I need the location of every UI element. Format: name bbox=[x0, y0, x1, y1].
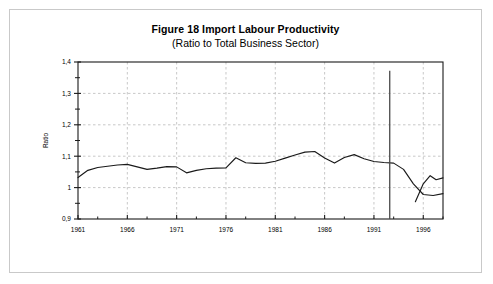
y-tick-label: 1 bbox=[67, 184, 71, 191]
x-tick-label: 1976 bbox=[219, 226, 234, 233]
x-tick-label: 1996 bbox=[416, 226, 431, 233]
figure-outer-frame: Figure 18 Import Labour Productivity (Ra… bbox=[9, 9, 482, 273]
x-tick-label: 1981 bbox=[268, 226, 283, 233]
x-tick-label: 1966 bbox=[120, 226, 135, 233]
x-axis-tick-labels: 19611966197119761981198619911996 bbox=[71, 226, 431, 233]
y-axis-title-text: Ratio bbox=[42, 133, 49, 149]
data-series-line bbox=[78, 151, 443, 201]
y-axis-title: Ratio bbox=[42, 133, 49, 149]
chart-plot: 0,911,11,21,31,4 19611966197119761981198… bbox=[10, 10, 483, 274]
y-tick-label: 1,2 bbox=[62, 121, 71, 128]
x-tick-label: 1961 bbox=[71, 226, 86, 233]
y-tick-label: 1,3 bbox=[62, 90, 71, 97]
x-tick-label: 1991 bbox=[367, 226, 382, 233]
plot-frame bbox=[78, 62, 443, 219]
y-tick-label: 1,1 bbox=[62, 153, 71, 160]
y-tick-label: 1,4 bbox=[62, 58, 71, 65]
grid-lines bbox=[78, 62, 443, 219]
x-tick-label: 1971 bbox=[169, 226, 184, 233]
x-axis-ticks bbox=[78, 215, 443, 219]
y-tick-label: 0,9 bbox=[62, 215, 71, 222]
y-axis-tick-labels: 0,911,11,21,31,4 bbox=[62, 58, 71, 222]
x-tick-label: 1986 bbox=[317, 226, 332, 233]
